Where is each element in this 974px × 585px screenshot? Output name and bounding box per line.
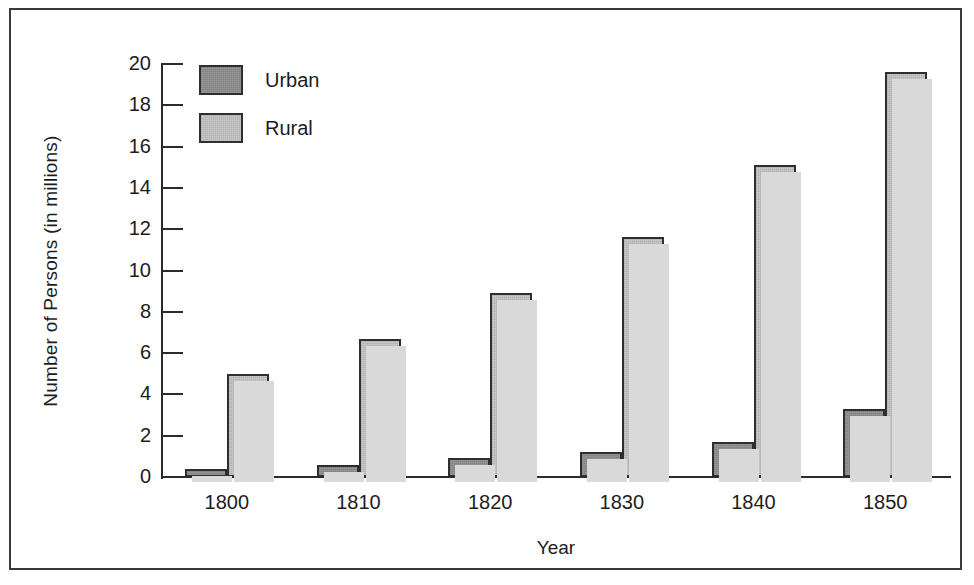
legend-item-rural: Rural bbox=[199, 108, 319, 148]
figure-frame: Number of Persons (in millions) Year 201… bbox=[9, 8, 962, 570]
bar-rural-1820 bbox=[490, 293, 532, 477]
y-tick-label-8: 8 bbox=[107, 301, 151, 321]
x-tick-label-1800: 1800 bbox=[182, 491, 272, 514]
chart-legend: Urban Rural bbox=[199, 60, 319, 156]
y-axis-label: Number of Persons (in millions) bbox=[40, 121, 62, 421]
bar-urban-1830 bbox=[580, 452, 622, 477]
y-tick-label-20: 20 bbox=[107, 53, 151, 73]
bar-urban-1850 bbox=[843, 409, 885, 477]
bar-urban-1800 bbox=[185, 469, 227, 477]
legend-label-urban: Urban bbox=[265, 69, 319, 92]
bar-rural-1840 bbox=[754, 165, 796, 477]
chart-figure: Number of Persons (in millions) Year 201… bbox=[0, 0, 974, 585]
x-tick-label-1820: 1820 bbox=[445, 491, 535, 514]
bar-rural-1810 bbox=[359, 339, 401, 477]
bar-rural-1830 bbox=[622, 237, 664, 477]
bar-urban-1840 bbox=[712, 442, 754, 477]
x-tick-label-1850: 1850 bbox=[840, 491, 930, 514]
y-tick-label-18: 18 bbox=[107, 94, 151, 114]
x-tick-label-1840: 1840 bbox=[709, 491, 799, 514]
x-tick-label-1830: 1830 bbox=[577, 491, 667, 514]
legend-item-urban: Urban bbox=[199, 60, 319, 100]
y-tick-label-10: 10 bbox=[107, 260, 151, 280]
x-tick-label-1810: 1810 bbox=[314, 491, 404, 514]
bar-urban-1810 bbox=[317, 465, 359, 477]
y-tick-label-14: 14 bbox=[107, 177, 151, 197]
legend-swatch-rural bbox=[199, 113, 243, 143]
y-tick-label-2: 2 bbox=[107, 425, 151, 445]
bar-rural-1850 bbox=[885, 72, 927, 477]
x-axis-label: Year bbox=[161, 537, 951, 559]
y-tick-label-6: 6 bbox=[107, 342, 151, 362]
legend-swatch-urban bbox=[199, 65, 243, 95]
bar-rural-1800 bbox=[227, 374, 269, 477]
y-tick-label-0: 0 bbox=[107, 466, 151, 486]
legend-label-rural: Rural bbox=[265, 117, 313, 140]
bar-urban-1820 bbox=[448, 458, 490, 477]
y-tick-label-4: 4 bbox=[107, 383, 151, 403]
y-tick-label-12: 12 bbox=[107, 218, 151, 238]
y-tick-label-16: 16 bbox=[107, 136, 151, 156]
